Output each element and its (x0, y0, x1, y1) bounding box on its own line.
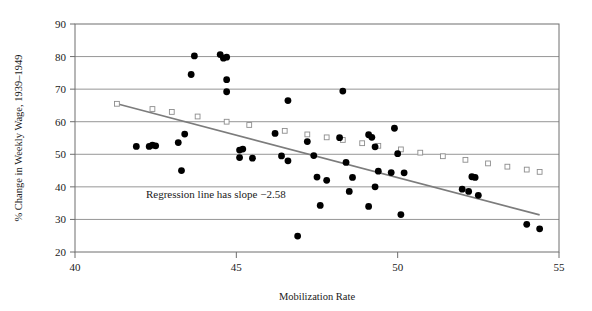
data-point (339, 88, 346, 95)
data-point (314, 174, 321, 181)
data-point (388, 169, 395, 176)
regression-marker (195, 114, 200, 119)
data-point (397, 211, 404, 218)
data-point (475, 192, 482, 199)
regression-marker (224, 119, 229, 124)
data-point (465, 188, 472, 195)
data-point (223, 76, 230, 83)
data-point (365, 203, 372, 210)
data-point (278, 153, 285, 160)
y-tick-label-40: 40 (55, 181, 67, 193)
y-tick-label-90: 90 (55, 18, 67, 30)
regression-marker (169, 110, 174, 115)
data-point (336, 134, 343, 141)
regression-marker (486, 161, 491, 166)
regression-marker (360, 141, 365, 146)
regression-marker (247, 123, 252, 128)
regression-marker (463, 157, 468, 162)
data-point (310, 152, 317, 159)
regression-marker (305, 132, 310, 137)
chart-canvas: 2030405060708090 40455055 Regression lin… (0, 0, 592, 311)
y-axis-title: % Change in Weekly Wage, 1939–1949 (13, 54, 24, 221)
data-point (223, 88, 230, 95)
data-point (459, 186, 466, 193)
data-point (317, 202, 324, 209)
data-point (394, 150, 401, 157)
data-point (375, 168, 382, 175)
data-point (523, 221, 530, 228)
data-point (236, 154, 243, 161)
regression-marker (150, 107, 155, 112)
data-point (349, 174, 356, 181)
y-tick-label-80: 80 (55, 51, 67, 63)
data-point (272, 130, 279, 137)
data-point (191, 53, 198, 60)
data-point (536, 225, 543, 232)
data-point (249, 155, 256, 162)
data-point (368, 134, 375, 141)
data-point (372, 143, 379, 150)
data-point (372, 183, 379, 190)
data-point (220, 55, 227, 62)
regression-marker (505, 164, 510, 169)
data-point (152, 142, 159, 149)
y-tick-label-30: 30 (55, 213, 67, 225)
data-point (178, 167, 185, 174)
data-point (133, 143, 140, 150)
chart-background (0, 0, 592, 311)
x-tick-label-50: 50 (392, 261, 404, 273)
regression-marker (440, 154, 445, 159)
data-point (239, 146, 246, 153)
data-point (181, 131, 188, 138)
data-point (285, 97, 292, 104)
y-tick-label-50: 50 (55, 148, 67, 160)
data-point (294, 233, 301, 240)
x-tick-label-45: 45 (231, 261, 243, 273)
y-tick-label-70: 70 (55, 83, 67, 95)
regression-marker (324, 135, 329, 140)
regression-marker (537, 169, 542, 174)
data-point (343, 159, 350, 166)
data-point (175, 139, 182, 146)
x-tick-label-55: 55 (554, 261, 566, 273)
data-point (401, 169, 408, 176)
regression-slope-annotation: Regression line has slope −2.58 (146, 188, 286, 200)
data-point (323, 177, 330, 184)
regression-marker (418, 150, 423, 155)
x-tick-label-40: 40 (70, 261, 82, 273)
regression-marker (115, 101, 120, 106)
regression-marker (524, 167, 529, 172)
data-point (188, 71, 195, 78)
data-point (304, 138, 311, 145)
data-point (346, 188, 353, 195)
data-point (391, 125, 398, 132)
data-point (285, 157, 292, 164)
regression-marker (282, 128, 287, 133)
scatter-plot-figure: 2030405060708090 40455055 Regression lin… (0, 0, 592, 311)
x-axis-title: Mobilization Rate (279, 291, 355, 302)
data-point (472, 174, 479, 181)
y-tick-label-20: 20 (55, 246, 67, 258)
y-tick-label-60: 60 (55, 116, 67, 128)
